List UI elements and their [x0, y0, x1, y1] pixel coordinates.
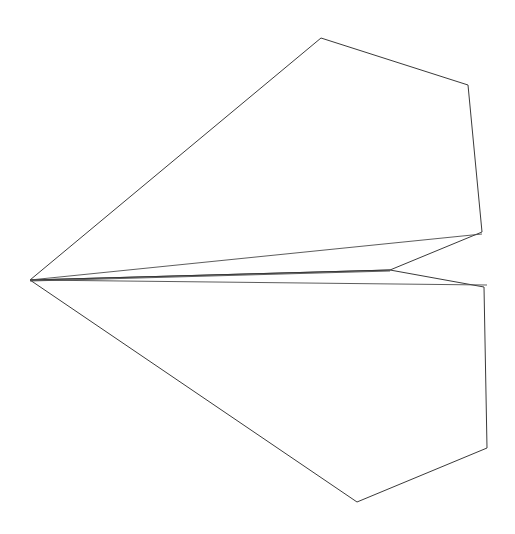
- figure-background: [0, 0, 515, 534]
- paper-airplane-figure: [0, 0, 515, 534]
- drawing-canvas: [0, 0, 515, 534]
